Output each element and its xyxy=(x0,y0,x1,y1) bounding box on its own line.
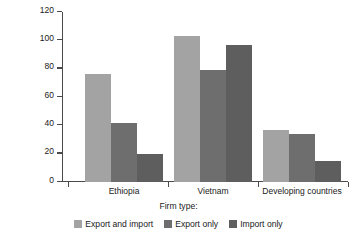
legend-swatch-icon xyxy=(229,220,237,228)
legend-swatch-icon xyxy=(164,220,172,228)
y-tick-label: 100 xyxy=(40,33,54,43)
legend-label: Export only xyxy=(175,219,218,229)
legend-item: Import only xyxy=(229,219,283,229)
x-tick xyxy=(68,182,69,187)
legend-swatch-icon xyxy=(74,220,82,228)
bar-group xyxy=(174,12,252,182)
bar-chart-figure: Productivity difference between trading … xyxy=(0,0,357,241)
x-tick xyxy=(348,182,349,187)
y-tick-label: 80 xyxy=(45,61,54,71)
legend: Export and importExport onlyImport only xyxy=(0,219,357,229)
x-axis-title: Firm type: xyxy=(0,201,357,211)
plot-area: 020406080100120 EthiopiaVietnamDevelopin… xyxy=(62,12,348,182)
legend-item: Export only xyxy=(164,219,218,229)
x-tick xyxy=(258,182,259,187)
y-tick: 0 xyxy=(57,181,62,182)
bar-group xyxy=(85,12,163,182)
legend-item: Export and import xyxy=(74,219,153,229)
bar xyxy=(289,134,315,182)
bar xyxy=(200,70,226,182)
bar xyxy=(174,36,200,182)
y-tick-label: 0 xyxy=(49,175,54,185)
bar xyxy=(111,123,137,183)
y-axis-line xyxy=(62,12,63,182)
bar xyxy=(263,130,289,182)
y-tick: 20 xyxy=(57,152,62,153)
y-tick-label: 120 xyxy=(40,5,54,15)
bar xyxy=(226,45,252,182)
x-tick xyxy=(168,182,169,187)
bar xyxy=(85,74,111,182)
y-tick-label: 60 xyxy=(45,90,54,100)
y-tick: 60 xyxy=(57,96,62,97)
legend-label: Import only xyxy=(240,219,283,229)
bar-group xyxy=(263,12,341,182)
bar xyxy=(137,154,163,182)
y-tick: 120 xyxy=(57,11,62,12)
y-tick-label: 40 xyxy=(45,118,54,128)
y-tick: 100 xyxy=(57,39,62,40)
legend-label: Export and import xyxy=(85,219,153,229)
y-tick: 80 xyxy=(57,67,62,68)
x-category-label: Developing countries xyxy=(242,186,357,196)
y-tick-label: 20 xyxy=(45,146,54,156)
bar xyxy=(315,161,341,182)
y-tick: 40 xyxy=(57,124,62,125)
